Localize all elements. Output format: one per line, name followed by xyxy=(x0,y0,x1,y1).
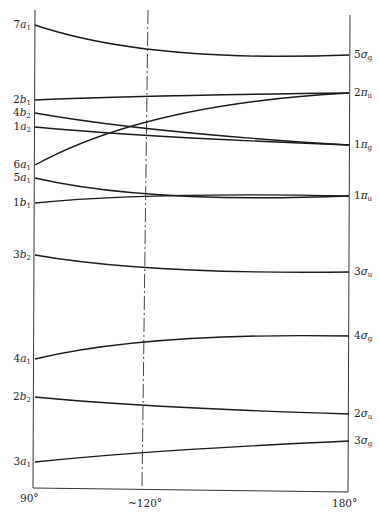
orbital-curve xyxy=(35,113,349,145)
orbital-curve xyxy=(35,255,349,272)
orbital-label: 1b1 xyxy=(1,196,31,212)
orbital-label: 1a2 xyxy=(1,120,31,136)
orbital-label: 3b2 xyxy=(1,248,31,264)
walsh-diagram xyxy=(0,0,379,517)
x-tick-90: 90° xyxy=(20,492,39,504)
orbital-label: 2σu xyxy=(354,407,372,423)
orbital-curve xyxy=(35,93,349,165)
orbital-curve xyxy=(35,25,349,56)
orbital-label: 2πu xyxy=(354,86,372,102)
bottom-axis xyxy=(33,488,348,492)
orbital-label: 4σg xyxy=(354,329,372,345)
x-tick-180: 180° xyxy=(332,497,357,509)
orbital-curve xyxy=(35,397,349,414)
orbital-curve xyxy=(35,441,349,462)
orbital-label: 5a1 xyxy=(1,171,31,187)
orbital-label: 3σg xyxy=(354,434,372,450)
orbital-label: 5σg xyxy=(354,48,372,64)
right-axis xyxy=(348,15,350,492)
left-axis xyxy=(33,10,35,488)
reference-line-120 xyxy=(142,10,148,488)
orbital-label: 3σu xyxy=(354,265,372,281)
orbital-curves xyxy=(35,25,349,462)
orbital-label: 7a1 xyxy=(1,18,31,34)
orbital-label: 1πu xyxy=(354,189,372,205)
orbital-curve xyxy=(35,336,349,359)
x-tick-120: ~120° xyxy=(128,497,162,509)
orbital-label: 2b2 xyxy=(1,390,31,406)
orbital-label: 1πg xyxy=(354,138,372,154)
orbital-label: 4a1 xyxy=(1,352,31,368)
orbital-label: 3a1 xyxy=(1,455,31,471)
